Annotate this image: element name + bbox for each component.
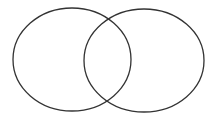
left-set-ellipse	[13, 8, 131, 111]
venn-diagram	[0, 0, 216, 122]
right-set-ellipse	[84, 9, 204, 112]
